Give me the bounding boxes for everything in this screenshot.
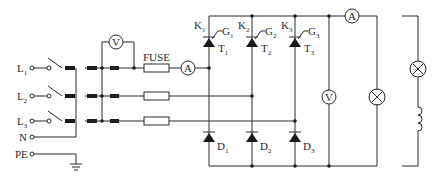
svg-text:K3: K3 — [281, 19, 293, 34]
svg-text:K1: K1 — [194, 19, 206, 34]
svg-text:A: A — [348, 10, 356, 22]
svg-text:G2: G2 — [265, 25, 277, 40]
thyristor-t3: K3 G3 T3 — [281, 19, 320, 57]
inductive-load — [402, 16, 426, 166]
terminal-label-l2: L2 — [17, 90, 28, 105]
svg-text:D3: D3 — [303, 140, 315, 155]
terminal-label-n: N — [19, 131, 27, 143]
terminal-l2 — [30, 94, 34, 98]
svg-text:G3: G3 — [308, 25, 320, 40]
diode-d3: D3 — [289, 132, 315, 155]
terminal-l3 — [30, 119, 34, 123]
fuse-label: FUSE — [143, 51, 170, 63]
terminal-label-l1: L1 — [17, 62, 28, 77]
inductor-coil-icon — [418, 107, 422, 131]
circuit-diagram: L1 L2 L3 N PE — [0, 0, 439, 184]
fuses: FUSE — [143, 51, 170, 125]
terminal-label-l3: L3 — [17, 115, 28, 130]
ground-icon — [70, 164, 82, 170]
terminal-l1 — [30, 66, 34, 70]
diode-d2: D2 — [246, 132, 272, 155]
svg-text:G1: G1 — [222, 25, 234, 40]
svg-text:V: V — [325, 91, 333, 103]
terminal-n — [30, 135, 34, 139]
svg-text:T2: T2 — [261, 42, 272, 57]
svg-text:T3: T3 — [304, 42, 315, 57]
svg-text:V: V — [112, 36, 120, 48]
thyristor-t2: K2 G2 T2 — [238, 19, 277, 57]
input-terminals: L1 L2 L3 N PE — [15, 58, 82, 170]
svg-text:K2: K2 — [238, 19, 250, 34]
thyristor-t1: K1 G1 T1 — [194, 19, 234, 57]
svg-text:D1: D1 — [217, 140, 229, 155]
output-voltmeter: V — [322, 90, 336, 104]
input-voltmeter: V — [102, 35, 136, 70]
terminal-pe — [30, 152, 34, 156]
svg-text:A: A — [184, 62, 192, 74]
diode-d1: D1 — [203, 132, 229, 155]
lamp-load-icon — [369, 89, 385, 105]
terminal-blocks — [65, 66, 119, 123]
terminal-label-pe: PE — [15, 148, 28, 160]
output-ammeter: A — [345, 9, 359, 23]
svg-text:T1: T1 — [218, 42, 229, 57]
lamp-icon — [410, 61, 426, 77]
rectifier-bridge: K1 G1 T1 K2 G2 T2 K3 G3 T3 D1 — [194, 9, 385, 168]
svg-text:D2: D2 — [260, 140, 272, 155]
